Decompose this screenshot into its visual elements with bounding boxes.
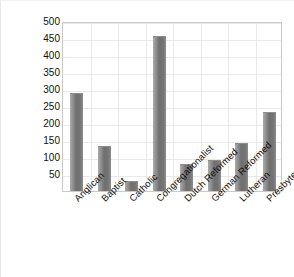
- gridline-horizontal: [63, 125, 281, 126]
- x-axis-tick-labels: AnglicanBaptistCatholicCongregationalist…: [62, 192, 282, 277]
- gridline-horizontal: [63, 40, 281, 41]
- gridline-horizontal: [63, 108, 281, 109]
- bar-anglican: [70, 93, 83, 191]
- y-tick-label: 100: [34, 153, 60, 163]
- gridline-vertical: [173, 23, 174, 191]
- gridline-horizontal: [63, 23, 281, 24]
- gridline-vertical: [256, 23, 257, 191]
- chart-screenshot: Number of Churches 501001502002503003504…: [0, 0, 294, 277]
- y-axis-tick-labels: 50100150200250300350400450500: [30, 22, 60, 192]
- gridline-horizontal: [63, 91, 281, 92]
- gridline-vertical: [228, 23, 229, 191]
- y-tick-label: 50: [34, 170, 60, 180]
- y-tick-label: 200: [34, 119, 60, 129]
- y-tick-label: 350: [34, 68, 60, 78]
- gridline-vertical: [201, 23, 202, 191]
- y-tick-label: 250: [34, 102, 60, 112]
- y-tick-label: 300: [34, 85, 60, 95]
- gridline-vertical: [146, 23, 147, 191]
- gridline-horizontal: [63, 74, 281, 75]
- bar-congregationalist: [153, 36, 166, 191]
- y-tick-label: 500: [34, 17, 60, 27]
- gridline-vertical: [91, 23, 92, 191]
- y-tick-label: 150: [34, 136, 60, 146]
- gridline-vertical: [118, 23, 119, 191]
- gridline-horizontal: [63, 142, 281, 143]
- gridline-horizontal: [63, 57, 281, 58]
- bar-baptist: [98, 146, 111, 191]
- y-tick-label: 400: [34, 51, 60, 61]
- y-tick-label: 450: [34, 34, 60, 44]
